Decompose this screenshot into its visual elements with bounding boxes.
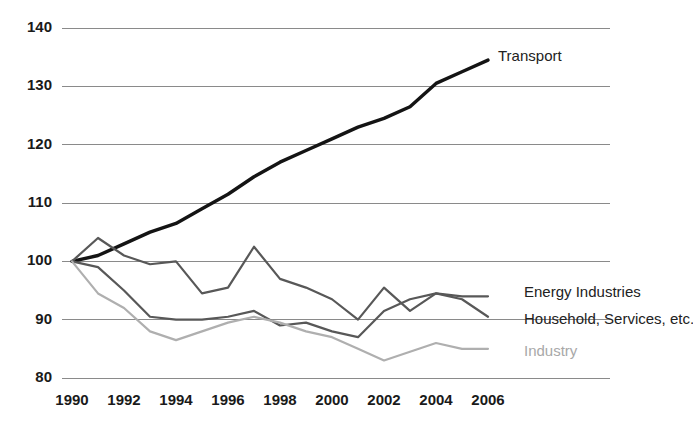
x-tick-label-1994: 1994	[159, 391, 193, 408]
y-tick-label-130: 130	[27, 76, 52, 93]
series-label-transport: Transport	[498, 47, 562, 64]
series-label-household-services-etc: Household, Services, etc.	[524, 310, 693, 327]
x-tick-label-2006: 2006	[471, 391, 504, 408]
series-line-industry	[72, 261, 488, 360]
x-tick-label-2000: 2000	[315, 391, 348, 408]
x-tick-label-1998: 1998	[263, 391, 296, 408]
series-label-energy-industries: Energy Industries	[524, 283, 641, 300]
series-line-energy-industries	[72, 238, 488, 320]
x-tick-label-1992: 1992	[107, 391, 140, 408]
chart-plot-area: 1401301201101009080 19901992199419961998…	[0, 0, 693, 434]
y-tick-label-120: 120	[27, 135, 52, 152]
series-lines-group	[72, 60, 488, 360]
y-tick-label-140: 140	[27, 18, 52, 35]
x-tick-label-2002: 2002	[367, 391, 400, 408]
line-chart: 1401301201101009080 19901992199419961998…	[0, 0, 693, 434]
x-axis-tick-labels: 199019921994199619982000200220042006	[55, 391, 504, 408]
y-tick-label-90: 90	[35, 310, 52, 327]
series-line-transport	[72, 60, 488, 261]
x-tick-label-2004: 2004	[419, 391, 453, 408]
y-tick-label-100: 100	[27, 251, 52, 268]
y-axis-tick-labels: 1401301201101009080	[27, 18, 52, 385]
x-tick-label-1990: 1990	[55, 391, 88, 408]
y-tick-label-80: 80	[35, 368, 52, 385]
x-tick-label-1996: 1996	[211, 391, 244, 408]
series-label-industry: Industry	[524, 342, 578, 359]
y-tick-label-110: 110	[28, 193, 52, 210]
